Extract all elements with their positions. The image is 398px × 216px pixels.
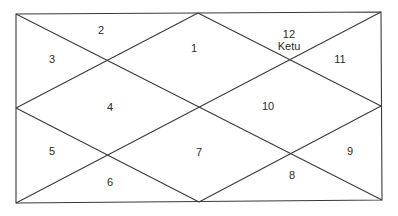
house-12: 12Ketu	[278, 28, 301, 52]
house-number: 1	[191, 42, 197, 54]
house-10: 10	[262, 100, 274, 112]
house-8: 8	[289, 169, 295, 181]
house-number: 7	[196, 146, 202, 158]
house-6: 6	[107, 176, 113, 188]
diamond-top-left	[16, 13, 198, 108]
house-number: 2	[98, 24, 104, 36]
house-7: 7	[196, 146, 202, 158]
house-number: 10	[262, 100, 274, 112]
house-number: 12	[278, 28, 301, 40]
house-planets: Ketu	[278, 40, 301, 52]
birth-chart-lines	[0, 0, 398, 216]
house-1: 1	[191, 42, 197, 54]
house-number: 4	[107, 101, 113, 113]
house-number: 8	[289, 169, 295, 181]
house-number: 6	[107, 176, 113, 188]
house-5: 5	[49, 145, 55, 157]
house-number: 3	[49, 53, 55, 65]
diagonal-anti	[16, 12, 381, 203]
house-number: 5	[49, 145, 55, 157]
house-4: 4	[107, 101, 113, 113]
house-number: 9	[347, 145, 353, 157]
house-3: 3	[49, 53, 55, 65]
house-number: 11	[334, 53, 345, 65]
house-11: 11	[334, 53, 345, 65]
house-2: 2	[98, 24, 104, 36]
house-9: 9	[347, 145, 353, 157]
